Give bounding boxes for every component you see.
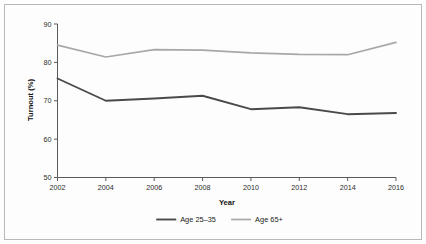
y-tick-label: 80 — [44, 58, 52, 67]
chart-legend: Age 25–35Age 65+ — [156, 215, 283, 224]
x-tick-label: 2012 — [291, 183, 307, 192]
y-axis-ticks: 5060708090 — [44, 20, 58, 183]
x-axis-title: Year — [219, 198, 235, 207]
y-tick-label: 90 — [44, 20, 52, 29]
y-tick-label: 70 — [44, 96, 52, 105]
x-tick-label: 2008 — [195, 183, 211, 192]
legend-label: Age 65+ — [255, 215, 283, 224]
y-tick-label: 60 — [44, 135, 52, 144]
x-tick-label: 2004 — [98, 183, 114, 192]
x-axis-ticks: 20022004200620082010201220142016 — [50, 178, 405, 193]
x-tick-label: 2006 — [146, 183, 162, 192]
series-line-age-65-plus — [58, 42, 397, 57]
line-chart-plot: 5060708090 20022004200620082010201220142… — [0, 0, 426, 244]
x-tick-label: 2014 — [340, 183, 356, 192]
x-tick-label: 2016 — [388, 183, 404, 192]
y-tick-label: 50 — [44, 173, 52, 182]
chart-figure: 5060708090 20022004200620082010201220142… — [0, 0, 426, 244]
x-tick-label: 2002 — [50, 183, 66, 192]
x-tick-label: 2010 — [243, 183, 259, 192]
y-axis-title: Turnout (%) — [26, 79, 35, 122]
legend-label: Age 25–35 — [180, 215, 216, 224]
series-line-age-25-35 — [58, 78, 397, 114]
